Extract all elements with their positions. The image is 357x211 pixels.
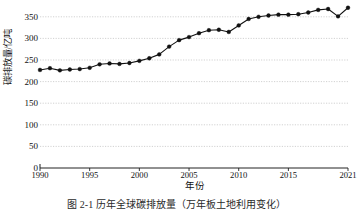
y-axis-tick: 200 xyxy=(12,77,38,87)
y-axis-tick: 250 xyxy=(12,55,38,65)
chart-plot-area xyxy=(0,0,353,186)
x-axis-title: 年份 xyxy=(40,178,350,192)
y-axis-tick: 300 xyxy=(12,33,38,43)
figure-caption: 图 2-1 历年全球碳排放量（万年板土地利用变化） xyxy=(0,196,353,211)
y-axis-tick: 150 xyxy=(12,98,38,108)
y-axis-tick: 350 xyxy=(12,12,38,22)
line-chart-svg xyxy=(0,0,353,186)
y-axis-tick: 100 xyxy=(12,120,38,130)
y-axis-tick: 50 xyxy=(12,141,38,151)
y-axis-title: 碳排放量/亿吨 xyxy=(3,11,13,103)
